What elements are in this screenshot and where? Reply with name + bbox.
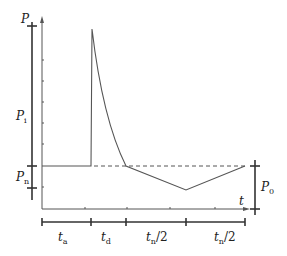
- tn-half-label-1: tn/2: [146, 230, 168, 246]
- tn-half-label-2: tn/2: [214, 230, 236, 246]
- top-p-label: P: [20, 12, 30, 26]
- right-scale-bar: [250, 160, 260, 215]
- y-axis-arrow-icon: [40, 16, 44, 23]
- left-scale-bar: [27, 22, 37, 200]
- pi-label: Pi: [15, 109, 27, 125]
- p0-label: P0: [260, 180, 274, 196]
- x-axis-arrow-icon: [243, 207, 250, 211]
- pn-label: Pn: [15, 170, 29, 186]
- y-axis: [42, 20, 44, 209]
- td-label: td: [101, 230, 111, 246]
- time-segment-bar: [42, 218, 245, 226]
- pulse-diagram: P Pi Pn t P0 ta td tn/2 tn/2: [0, 0, 287, 256]
- ta-label: ta: [58, 230, 68, 246]
- x-axis: [42, 207, 245, 209]
- t-axis-label: t: [239, 194, 244, 208]
